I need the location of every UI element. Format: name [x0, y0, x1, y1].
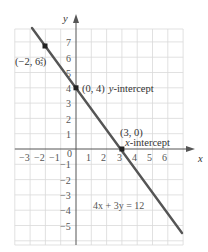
svg-text:−1: −1 [60, 159, 71, 170]
svg-text:7: 7 [66, 37, 71, 48]
x-axis-label: x [197, 153, 203, 164]
svg-text:−2: −2 [60, 175, 71, 186]
svg-text:−5: −5 [60, 221, 71, 232]
svg-text:3: 3 [117, 152, 122, 163]
svg-text:3: 3 [66, 98, 71, 109]
svg-text:0: 0 [67, 148, 72, 159]
label-y-intercept: (0, 4)y-intercept [82, 83, 154, 95]
svg-text:6: 6 [66, 53, 71, 64]
svg-text:−1: −1 [49, 152, 60, 163]
svg-text:4: 4 [66, 83, 71, 94]
x-tick-labels: −3 −2 −1 0 1 2 3 4 5 6 [19, 148, 167, 163]
y-tick-labels: 7 6 5 4 3 2 1 −1 −2 −3 −4 −5 [60, 37, 71, 232]
point-x-intercept [119, 147, 124, 152]
svg-text:2: 2 [66, 114, 71, 125]
y-axis-arrow-icon [73, 14, 79, 23]
coordinate-plane: x y −3 −2 −1 0 1 2 3 4 5 6 7 6 5 4 3 2 1… [0, 0, 208, 252]
svg-text:1: 1 [66, 129, 71, 140]
svg-text:1: 1 [86, 152, 91, 163]
svg-text:5: 5 [147, 152, 152, 163]
label-point-neg2: (−2, 623) [15, 56, 47, 68]
point-y-intercept [74, 85, 79, 90]
label-x-intercept: x-intercept [124, 137, 170, 148]
x-axis-arrow-icon [186, 146, 195, 152]
svg-text:−4: −4 [60, 205, 71, 216]
svg-text:2: 2 [101, 152, 106, 163]
svg-text:−3: −3 [60, 190, 71, 201]
y-axis-label: y [62, 13, 68, 24]
svg-text:4: 4 [132, 152, 137, 163]
point-neg2-6-2-3 [43, 44, 48, 49]
svg-text:−3: −3 [19, 152, 30, 163]
equation-label: 4x + 3y = 12 [93, 200, 144, 211]
svg-text:6: 6 [162, 152, 167, 163]
svg-text:−2: −2 [34, 152, 45, 163]
